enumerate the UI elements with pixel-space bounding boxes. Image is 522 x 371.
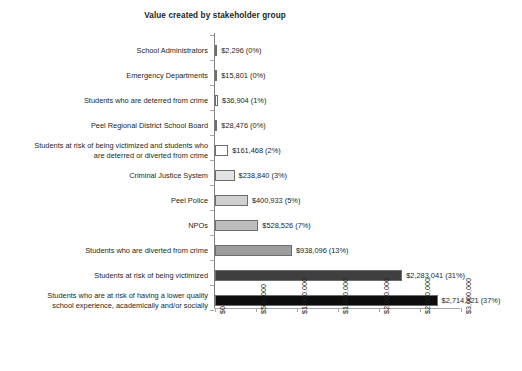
category-label: Students who are deterred from crime: [0, 96, 208, 105]
x-axis-tick-label: $2,000,000: [382, 278, 391, 314]
category-label: Emergency Departments: [0, 71, 208, 80]
bar-row: Students at risk of being victimized and…: [0, 135, 522, 160]
x-axis-tick-label: $3,000,000: [464, 278, 473, 314]
y-axis-tick: [210, 235, 214, 236]
bar-value-label: $400,933 (5%): [252, 195, 300, 206]
bar-value-label: $15,801 (0%): [221, 70, 265, 81]
bar[interactable]: [215, 295, 438, 306]
bar[interactable]: [215, 220, 258, 231]
bar-row: Students who are diverted from crime$938…: [0, 235, 522, 260]
bar-value-label: $528,526 (7%): [262, 220, 310, 231]
category-label: Students who are diverted from crime: [0, 246, 208, 255]
y-axis-tick: [210, 185, 214, 186]
x-axis-tick: [420, 308, 421, 312]
bar[interactable]: [215, 95, 218, 106]
x-axis-tick-label: $500,000: [259, 284, 268, 314]
bar-value-label: $238,840 (3%): [239, 170, 287, 181]
y-axis-tick: [210, 260, 214, 261]
category-label: Students at risk of being victimized and…: [0, 141, 208, 160]
x-axis-tick-label: $0: [218, 306, 227, 314]
y-axis-tick: [210, 285, 214, 286]
x-axis-tick: [297, 308, 298, 312]
category-label: School Administrators: [0, 46, 208, 55]
chart-title: Value created by stakeholder group: [0, 11, 430, 20]
bar-value-label: $2,296 (0%): [221, 45, 261, 56]
x-axis-tick: [379, 308, 380, 312]
bar-row: School Administrators$2,296 (0%): [0, 35, 522, 60]
bar-row: Peel Police$400,933 (5%): [0, 185, 522, 210]
bar-row: Students who are deterred from crime$36,…: [0, 85, 522, 110]
bar[interactable]: [215, 145, 228, 156]
bar[interactable]: [215, 245, 292, 256]
y-axis-tick: [210, 210, 214, 211]
bar-value-label: $938,096 (13%): [296, 245, 349, 256]
category-label: Peel Police: [0, 196, 208, 205]
bar[interactable]: [215, 120, 217, 131]
y-axis-tick: [210, 160, 214, 161]
chart-container: Value created by stakeholder group Schoo…: [0, 0, 522, 371]
bar[interactable]: [215, 195, 248, 206]
plot-area: School Administrators$2,296 (0%)Emergenc…: [0, 33, 522, 308]
x-axis-tick: [338, 308, 339, 312]
x-axis-tick-label: $1,000,000: [300, 278, 309, 314]
y-axis-tick: [210, 110, 214, 111]
category-label: Criminal Justice System: [0, 171, 208, 180]
bar-row: Peel Regional District School Board$28,4…: [0, 110, 522, 135]
bar[interactable]: [215, 45, 217, 56]
x-axis-tick-label: $1,500,000: [341, 278, 350, 314]
x-axis-tick: [256, 308, 257, 312]
x-axis: $0$500,000$1,000,000$1,500,000$2,000,000…: [0, 308, 522, 371]
bar-row: Students at risk of being victimized$2,2…: [0, 260, 522, 285]
bar-value-label: $28,476 (0%): [221, 120, 265, 131]
y-axis-tick: [210, 60, 214, 61]
y-axis-tick: [210, 135, 214, 136]
category-label: Peel Regional District School Board: [0, 121, 208, 130]
bar-value-label: $2,283,041 (31%): [406, 270, 465, 281]
bar-value-label: $36,904 (1%): [222, 95, 266, 106]
bar-row: Criminal Justice System$238,840 (3%): [0, 160, 522, 185]
bar[interactable]: [215, 170, 235, 181]
bar[interactable]: [215, 70, 217, 81]
category-label: Students at risk of being victimized: [0, 271, 208, 280]
x-axis-tick-label: $2,500,000: [423, 278, 432, 314]
bar-value-label: $161,468 (2%): [232, 145, 280, 156]
bar-row: Emergency Departments$15,801 (0%): [0, 60, 522, 85]
x-axis-tick: [461, 308, 462, 312]
y-axis-tick: [210, 85, 214, 86]
x-axis-tick: [215, 308, 216, 312]
bar-row: NPOs$528,526 (7%): [0, 210, 522, 235]
y-axis-tick: [210, 35, 214, 36]
category-label: NPOs: [0, 221, 208, 230]
